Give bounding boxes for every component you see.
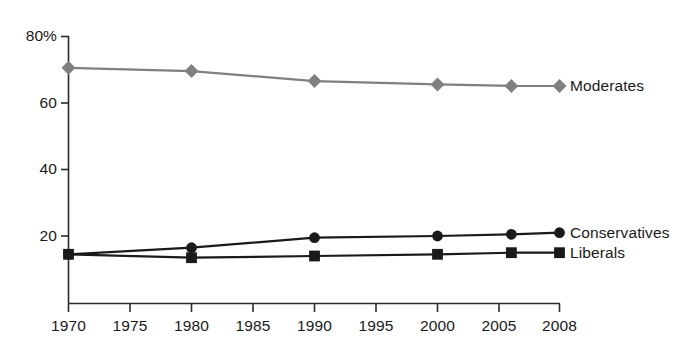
- line-chart: 80% 60 40 20 1970 1975 1980 1985 1990 19…: [0, 0, 698, 361]
- x-axis-ticks: [69, 304, 560, 313]
- y-tick-label-80: 80%: [2, 27, 57, 45]
- chart-plot-area: [0, 0, 698, 361]
- series-moderates: [62, 61, 567, 93]
- series-label-moderates: Moderates: [570, 77, 644, 95]
- series-moderates-markers: [62, 61, 567, 93]
- y-tick-label-40: 40: [2, 160, 57, 178]
- y-tick-label-60: 60: [2, 94, 57, 112]
- series-label-liberals: Liberals: [570, 244, 625, 262]
- series-label-conservatives: Conservatives: [570, 224, 670, 242]
- x-tick-label-2008: 2008: [520, 317, 600, 335]
- y-tick-label-20: 20: [2, 227, 57, 245]
